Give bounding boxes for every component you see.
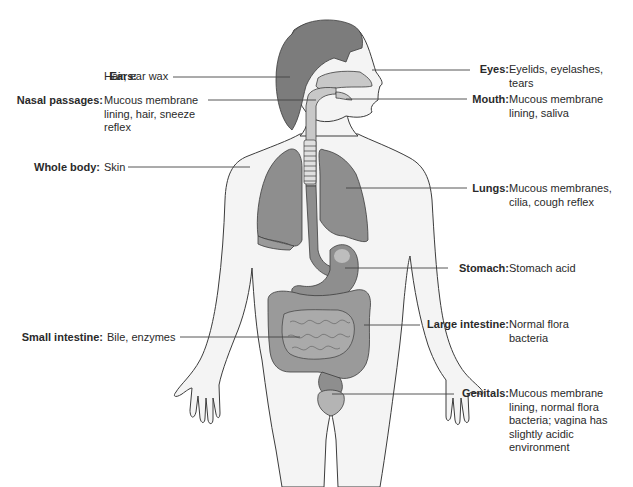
label-small-intestine-term: Small intestine: bbox=[22, 331, 103, 345]
label-small-intestine-desc: Bile, enzymes bbox=[107, 331, 175, 345]
label-large-intestine-term: Large intestine: bbox=[427, 318, 509, 332]
label-lungs-term: Lungs: bbox=[472, 182, 509, 196]
stomach-highlight bbox=[334, 249, 350, 263]
label-mouth-desc: Mucous membrane lining, saliva bbox=[509, 93, 603, 120]
label-stomach-term: Stomach: bbox=[459, 262, 509, 276]
label-large-intestine-desc: Normal flora bacteria bbox=[509, 318, 569, 345]
label-mouth-term: Mouth: bbox=[472, 93, 509, 107]
label-genitals-term: Genitals: bbox=[462, 387, 509, 401]
trachea bbox=[304, 140, 316, 184]
label-stomach-desc: Stomach acid bbox=[509, 262, 576, 276]
label-ears-desc: Hair, ear wax bbox=[104, 70, 168, 84]
label-eyes-desc: Eyelids, eyelashes, tears bbox=[509, 63, 603, 90]
label-whole-body-term: Whole body: bbox=[34, 161, 100, 175]
label-eyes-term: Eyes: bbox=[480, 63, 509, 77]
body-defenses-diagram: Ears: Hair, ear wax Nasal passages: Muco… bbox=[0, 0, 633, 487]
label-genitals-desc: Mucous membrane lining, normal flora bac… bbox=[509, 387, 607, 455]
label-nasal-term: Nasal passages: bbox=[17, 94, 103, 108]
label-whole-body-desc: Skin bbox=[104, 161, 125, 175]
small-intestine bbox=[282, 310, 354, 360]
label-lungs-desc: Mucous membranes, cilia, cough reflex bbox=[509, 182, 612, 209]
label-nasal-desc: Mucous membrane lining, hair, sneeze ref… bbox=[104, 94, 198, 135]
